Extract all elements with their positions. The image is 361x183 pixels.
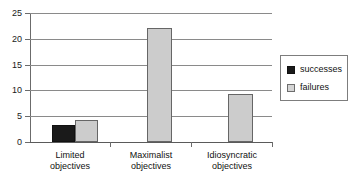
category-label-maximalist: Maximalist objectives [111, 150, 191, 172]
gray-square-icon [287, 84, 295, 92]
ytick-label-15: 15 [12, 61, 22, 70]
category-label-limited: Limited objectives [30, 150, 110, 172]
bar-failures-limited[interactable] [75, 120, 98, 142]
bar-successes-limited[interactable] [52, 125, 75, 142]
category-label-maximalist-line1: Maximalist [111, 150, 191, 161]
ytick-label-0: 0 [17, 138, 22, 147]
category-label-limited-line1: Limited [30, 150, 110, 161]
legend-item-failures[interactable]: failures [287, 83, 329, 92]
xtick-mark-1 [191, 142, 192, 147]
legend-item-successes[interactable]: successes [287, 65, 342, 74]
gridline-25 [30, 13, 272, 14]
bar-failures-idiosyncratic[interactable] [228, 94, 253, 142]
ytick-label-20: 20 [12, 35, 22, 44]
chart-legend: successes failures [280, 55, 348, 101]
category-label-idiosyncratic: Idiosyncratic objectives [192, 150, 272, 172]
ytick-label-5: 5 [17, 112, 22, 121]
xtick-mark-2 [272, 142, 273, 147]
category-label-idiosyncratic-line2: objectives [192, 161, 272, 172]
chart-figure: 25 20 15 10 5 0 Limited objectives Maxim… [0, 0, 361, 183]
black-square-icon [287, 66, 295, 74]
bar-failures-maximalist[interactable] [147, 28, 172, 142]
category-label-maximalist-line2: objectives [111, 161, 191, 172]
legend-label-successes: successes [300, 65, 342, 74]
category-label-limited-line2: objectives [30, 161, 110, 172]
ytick-label-25: 25 [12, 9, 22, 18]
xtick-mark-0 [110, 142, 111, 147]
legend-label-failures: failures [300, 83, 329, 92]
ytick-label-10: 10 [12, 86, 22, 95]
plot-area [30, 13, 272, 142]
x-axis-line [30, 142, 273, 143]
category-label-idiosyncratic-line1: Idiosyncratic [192, 150, 272, 161]
